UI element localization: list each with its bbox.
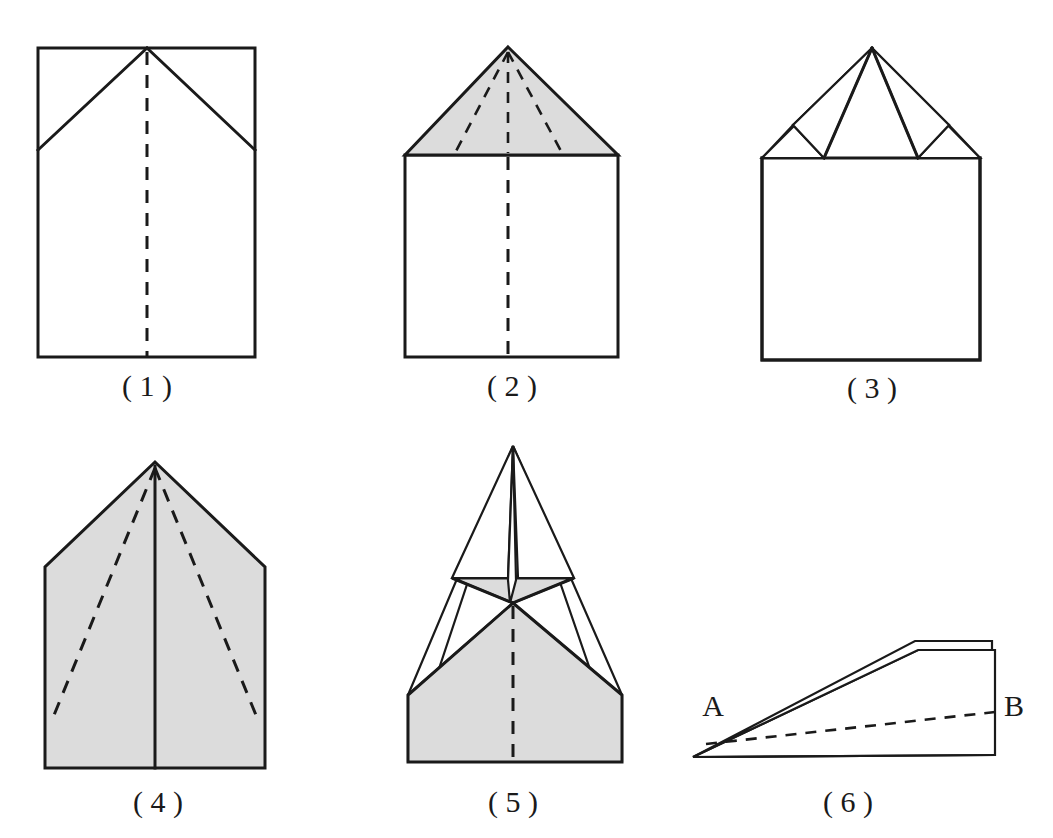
panel-2-group: ( 2 ) [405,47,618,403]
panel-5-group: ( 5 ) [408,446,622,819]
panel-2-triangle-flap [405,47,618,155]
point-label-b: B [1004,689,1024,722]
folding-diagram-figure: ( 1 ) ( 2 ) [0,0,1053,838]
panel-6-group: A B ( 6 ) [693,641,1024,819]
panel-2-caption: ( 2 ) [487,369,537,403]
panel-5-caption: ( 5 ) [488,785,538,819]
panel-3-body [762,158,980,360]
panel-1-caption: ( 1 ) [122,369,172,403]
panel-4-group: ( 4 ) [45,462,265,819]
panel-5-left-inner-triangle [452,446,513,578]
panel-3-caption: ( 3 ) [847,371,897,405]
panel-6-wedge-body [693,650,995,757]
panel-3-group: ( 3 ) [762,48,980,405]
panel-1-group: ( 1 ) [38,48,255,403]
panel-4-caption: ( 4 ) [133,785,183,819]
panel-5-right-inner-triangle [513,446,574,578]
figure-canvas: ( 1 ) ( 2 ) [0,0,1053,838]
panel-2-body [405,155,618,357]
panel-6-caption: ( 6 ) [823,785,873,819]
point-label-a: A [702,689,724,722]
